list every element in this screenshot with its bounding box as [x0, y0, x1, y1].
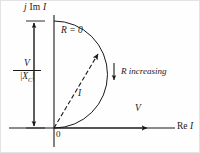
real-axis-re-text: Re: [177, 121, 188, 131]
real-axis-label: Re IRe I: [177, 122, 193, 132]
imaginary-axis-label: j Im I: [24, 3, 46, 13]
fraction-denominator: |XC|: [10, 71, 44, 83]
fraction-denominator-close: |: [32, 71, 34, 81]
figure-container: j Im I Re IRe I R = 0 R increasing I V 0…: [0, 0, 200, 153]
r-equals-zero-label: R = 0: [61, 26, 83, 36]
fraction-denominator-open: |X: [20, 71, 28, 81]
imaginary-axis-im: Im: [30, 2, 41, 12]
current-phasor-label: I: [78, 89, 81, 99]
real-axis-i: I: [190, 121, 193, 131]
fraction-numerator: V: [10, 59, 44, 70]
imaginary-axis-i: I: [43, 2, 46, 12]
r-increasing-label: R increasing: [121, 67, 166, 76]
origin-label: 0: [56, 130, 61, 139]
magnitude-fraction-label: V |XC|: [10, 59, 44, 83]
current-phasor-arrow: [54, 54, 98, 128]
r-increasing-text: R increasing: [121, 66, 166, 76]
current-locus-semicircle: [54, 21, 108, 128]
voltage-phasor-label: V: [135, 104, 141, 114]
